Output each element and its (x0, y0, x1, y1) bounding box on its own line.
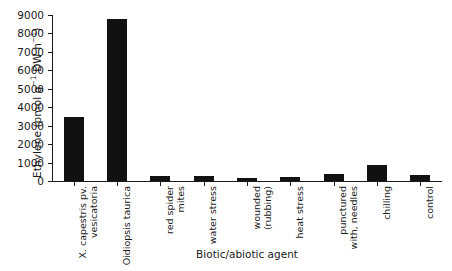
bar-chart-figure: Ethylene (pmol g−1 DW h−1) 0100020003000… (0, 0, 452, 271)
bar (194, 176, 214, 181)
bar (324, 174, 344, 181)
y-axis-tick-label: 8000 (17, 27, 44, 39)
bar (150, 176, 170, 181)
y-axis-tick-label: 3000 (17, 120, 44, 132)
y-axis-tick-mark (48, 15, 52, 16)
y-axis-tick-label: 5000 (17, 83, 44, 95)
x-axis-tick-label: chilling (382, 186, 393, 220)
x-axis-tick-label: control (425, 186, 436, 219)
x-axis-tick-label: water stress (208, 186, 219, 244)
x-axis-tick-label-line: mites (175, 186, 186, 234)
y-axis-tick-mark (48, 70, 52, 71)
y-axis-tick-mark (48, 126, 52, 127)
y-axis-tick-label: 1000 (17, 157, 44, 169)
x-axis-tick-label: wounded(rubbing) (252, 186, 273, 230)
x-axis-tick-label-line: control (424, 186, 435, 219)
y-axis-tick-mark (48, 107, 52, 108)
plot-area (52, 15, 442, 182)
y-axis-tick-label: 0 (37, 175, 44, 187)
y-axis-spine (52, 15, 53, 182)
y-axis-tick-mark (48, 89, 52, 90)
bar (410, 175, 430, 181)
y-axis-tick-mark (48, 181, 52, 182)
y-axis-tick-label: 4000 (17, 101, 44, 113)
x-axis-tick-label-line: heat stress (294, 186, 305, 239)
x-axis-tick-label-line: wounded (251, 186, 262, 230)
y-axis-tick-mark (48, 33, 52, 34)
y-axis-tick-mark (48, 52, 52, 53)
x-axis-tick-label-line: red spider (164, 186, 175, 234)
y-axis-tick-label: 9000 (17, 9, 44, 21)
x-axis-tick-label-line: punctured (337, 186, 348, 235)
y-axis-tick-mark (48, 163, 52, 164)
x-axis-tick-label: heat stress (295, 186, 306, 239)
x-axis-tick-labels: X. capestris pv.vesicatoriaOidiopsis tau… (52, 186, 442, 248)
x-axis-tick-label: red spidermites (165, 186, 186, 234)
x-axis-tick-label-line: water stress (207, 186, 218, 244)
x-axis-title: Biotic/abiotic agent (52, 248, 442, 260)
x-axis-tick-label-line: with, needles (349, 186, 360, 249)
y-axis-tick-label: 6000 (17, 64, 44, 76)
y-axis-tick-mark (48, 144, 52, 145)
y-axis-tick-label: 2000 (17, 138, 44, 150)
y-axis-tick-labels: 0100020003000400050006000700080009000 (0, 0, 48, 271)
bar (367, 165, 387, 181)
x-axis-tick-label-line: chilling (381, 186, 392, 220)
bar (280, 177, 300, 181)
bar (237, 178, 257, 181)
bar (107, 19, 127, 181)
x-axis-tick-label: puncturedwith, needles (338, 186, 359, 249)
y-axis-tick-label: 7000 (17, 46, 44, 58)
x-axis-tick-label-line: (rubbing) (262, 186, 273, 230)
bar (64, 117, 84, 181)
